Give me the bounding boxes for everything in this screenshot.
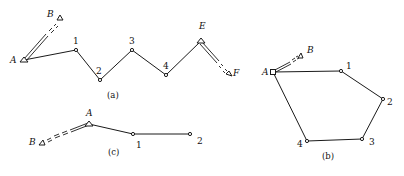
traverse-point-1-icon: [131, 132, 134, 135]
panel-a-connecting-traverse: A B E F 1 2 3 4 (a): [9, 9, 240, 100]
point-b-triangle-icon: [298, 53, 303, 58]
label-a: A: [85, 108, 93, 118]
traverse-point-4-icon: [305, 139, 308, 142]
point-a-marker-icon: [271, 70, 276, 75]
traverse-point-2-icon: [98, 78, 101, 81]
traverse-legs-c: [89, 124, 190, 134]
traverse-legs-b: [273, 71, 383, 141]
label-b: B: [306, 45, 314, 55]
label-1: 1: [73, 36, 79, 46]
known-direction-a-b: [39, 123, 89, 145]
label-3: 3: [369, 137, 375, 147]
traverse-point-3-icon: [130, 48, 133, 51]
known-direction-e-f: [200, 42, 232, 76]
label-2: 2: [96, 66, 102, 76]
point-b-triangle-icon: [57, 15, 63, 20]
traverse-point-2-icon: [188, 132, 191, 135]
label-f: F: [232, 68, 240, 78]
point-e-triangle-icon: [197, 38, 205, 43]
label-b: B: [46, 9, 54, 19]
label-b: B: [28, 137, 36, 147]
label-2: 2: [197, 136, 203, 146]
label-4: 4: [297, 139, 303, 149]
traverse-point-2-icon: [381, 97, 384, 100]
known-direction-a-b: [273, 53, 303, 73]
label-4: 4: [163, 61, 169, 71]
panel-b-closed-traverse: A B 1 2 3 4 (b): [261, 45, 393, 161]
label-a: A: [261, 67, 269, 77]
label-1: 1: [346, 61, 352, 71]
traverse-point-1-icon: [74, 48, 77, 51]
traverse-point-4-icon: [164, 73, 167, 76]
traverse-point-3-icon: [360, 137, 363, 140]
caption-a: (a): [107, 90, 119, 100]
traverse-diagram-canvas: A B E F 1 2 3 4 (a): [0, 0, 404, 176]
caption-c: (c): [108, 147, 119, 157]
label-2: 2: [387, 97, 393, 107]
traverse-diagram-figure: A B E F 1 2 3 4 (a): [0, 0, 404, 176]
traverse-legs-a: [24, 41, 201, 80]
label-3: 3: [129, 36, 135, 46]
label-a: A: [9, 55, 17, 65]
caption-b: (b): [322, 151, 334, 161]
point-f-triangle-icon: [226, 71, 232, 76]
traverse-point-1-icon: [339, 69, 342, 72]
label-e: E: [198, 21, 206, 31]
point-b-triangle-icon: [39, 140, 45, 145]
panel-c-open-traverse: A B 1 2 (c): [28, 108, 203, 157]
label-1: 1: [136, 140, 142, 150]
